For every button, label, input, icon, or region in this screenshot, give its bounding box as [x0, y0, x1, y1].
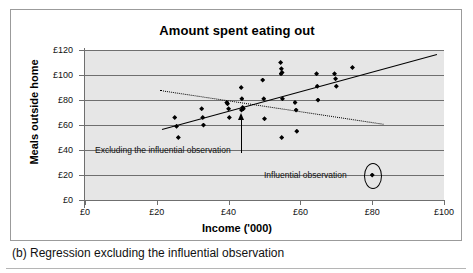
y-axis-tick	[79, 150, 85, 151]
x-axis-tick-label: £40	[209, 208, 249, 217]
x-axis-tick-label: £0	[65, 208, 105, 217]
scatter-point	[262, 116, 267, 121]
gridline	[85, 50, 444, 51]
scatter-point	[201, 123, 206, 128]
y-axis-title: Meals outside home	[28, 42, 40, 182]
y-axis-tick-label: £60	[37, 121, 73, 130]
bottom-divider	[6, 268, 466, 269]
scatter-point	[227, 115, 232, 120]
scatter-point	[315, 98, 320, 103]
x-axis-line	[85, 200, 445, 201]
x-axis-tick	[85, 200, 86, 205]
scatter-point	[279, 66, 284, 71]
x-axis-tick-label: £20	[137, 208, 177, 217]
annotation-arrow-head	[238, 113, 244, 120]
y-axis-tick	[79, 100, 85, 101]
scatter-point	[260, 78, 265, 83]
y-axis-tick-label: £100	[37, 71, 73, 80]
y-axis-tick	[79, 125, 85, 126]
y-axis-tick	[79, 75, 85, 76]
figure-caption: (b) Regression excluding the influential…	[12, 246, 284, 260]
scatter-point	[172, 115, 177, 120]
chart-title: Amount spent eating out	[11, 23, 463, 38]
annotation-arrow-stem	[241, 120, 242, 153]
scatter-point	[176, 135, 181, 140]
scatter-point	[199, 106, 204, 111]
y-axis-tick-label: £40	[37, 146, 73, 155]
scatter-point	[350, 65, 355, 70]
scatter-point	[294, 129, 299, 134]
x-axis-tick	[372, 200, 373, 205]
x-axis-title: Income ('000)	[11, 222, 463, 234]
figure-root: Amount spent eating out Meals outside ho…	[0, 0, 473, 273]
x-axis-tick	[157, 200, 158, 205]
scatter-point	[239, 85, 244, 90]
x-axis-tick	[444, 200, 445, 205]
y-axis-tick-label: £80	[37, 96, 73, 105]
y-axis-tick-label: £0	[37, 196, 73, 205]
scatter-point	[279, 135, 284, 140]
annotation-influential-observation: Influential observation	[264, 170, 347, 180]
scatter-point	[278, 60, 283, 65]
x-axis-tick-label: £80	[352, 208, 392, 217]
x-axis-tick	[300, 200, 301, 205]
y-axis-tick-label: £20	[37, 171, 73, 180]
gridline	[85, 125, 444, 126]
y-axis-line	[84, 48, 85, 208]
annotation-excluding-influential-observation: Excluding the influential observation	[95, 145, 231, 155]
chart-frame: Amount spent eating out Meals outside ho…	[10, 9, 462, 241]
y-axis-tick-label: £120	[37, 46, 73, 55]
x-axis-tick-label: £100	[424, 208, 464, 217]
x-axis-tick-label: £60	[280, 208, 320, 217]
gridline	[85, 75, 444, 76]
cropped-caption-remnant	[6, 0, 466, 6]
y-axis-tick	[79, 175, 85, 176]
scatter-point	[334, 84, 339, 89]
x-axis-tick	[229, 200, 230, 205]
y-axis-tick	[79, 50, 85, 51]
